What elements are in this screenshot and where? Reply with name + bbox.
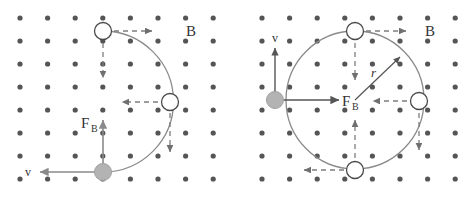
force-label: F (81, 115, 89, 131)
hollow-particle-right (162, 94, 179, 111)
dot-grid (259, 15, 457, 181)
filled-particle-bottom (95, 164, 112, 181)
magnetic-field-label: B (425, 23, 435, 39)
radius-label: r (371, 65, 377, 80)
dot-grid-row (17, 176, 215, 181)
velocity-label: v (25, 165, 31, 179)
dot-grid-row (17, 15, 215, 20)
dot-grid-row (259, 130, 457, 135)
velocity-label: v (272, 31, 278, 45)
dot-grid-row (17, 130, 215, 135)
force-sublabel: B (91, 123, 98, 134)
right-panel-charged-particle-orbit: B F B v r (238, 0, 476, 204)
force-label: F (342, 93, 350, 109)
force-sublabel: B (352, 101, 359, 112)
radius-arrow (355, 57, 400, 100)
dot-grid-row (259, 61, 457, 66)
dot-grid-row (17, 38, 215, 43)
magnetic-field-label: B (186, 23, 196, 39)
dot-grid-row (259, 84, 457, 89)
hollow-particle-right (411, 93, 428, 110)
physics-figure: B F B v (0, 0, 476, 204)
hollow-particle-top (95, 23, 112, 40)
dot-grid-row (17, 61, 215, 66)
filled-particle-left (267, 92, 284, 109)
dot-grid-row (17, 153, 215, 158)
dot-grid-row (259, 15, 457, 20)
dot-grid-row (17, 107, 215, 112)
dot-grid-row (17, 84, 215, 89)
hollow-particle-bottom (347, 162, 364, 179)
dot-grid-row (259, 153, 457, 158)
dot-grid (17, 15, 215, 181)
left-panel-charged-particle-spiral: B F B v (0, 0, 238, 204)
hollow-particle-top (347, 23, 364, 40)
